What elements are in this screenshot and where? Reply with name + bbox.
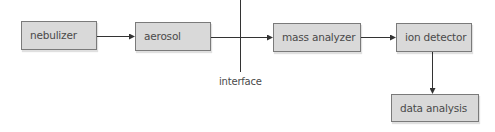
interface-label: interface	[219, 76, 262, 87]
node-label: aerosol	[144, 31, 181, 42]
node-label: nebulizer	[30, 30, 77, 41]
node-mass-analyzer: mass analyzer	[273, 23, 361, 52]
node-label: mass analyzer	[282, 32, 355, 43]
node-data-analysis: data analysis	[391, 94, 479, 122]
node-label: ion detector	[405, 32, 466, 43]
node-aerosol: aerosol	[135, 22, 211, 51]
node-label: data analysis	[400, 103, 467, 114]
node-ion-detector: ion detector	[396, 23, 472, 52]
node-nebulizer: nebulizer	[21, 21, 97, 50]
